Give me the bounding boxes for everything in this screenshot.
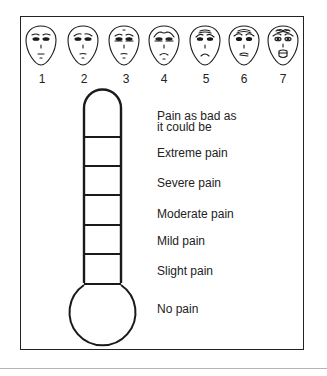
face-3-icon [109,26,139,65]
face-7-icon [268,26,298,65]
level-label-mild: Mild pain [157,236,205,247]
face-label-5: 5 [198,73,214,85]
pain-thermometer [69,90,135,346]
level-label-moderate: Moderate pain [157,209,234,220]
level-label-none: No pain [157,304,198,315]
face-2-icon [68,26,98,65]
face-label-3: 3 [118,73,134,85]
face-1-icon [26,26,56,65]
bottom-divider [0,368,327,369]
face-label-4: 4 [156,73,172,85]
face-label-1: 1 [34,73,50,85]
face-6-icon [229,26,259,65]
level-label-extreme: Extreme pain [157,148,228,159]
face-label-7: 7 [275,73,291,85]
level-label-slight: Slight pain [157,266,213,277]
face-4-icon [149,26,179,65]
face-label-6: 6 [236,73,252,85]
level-label-severe: Severe pain [157,178,221,189]
face-5-icon [190,26,220,65]
level-label-worst-line2: it could be [157,122,212,133]
face-label-2: 2 [76,73,92,85]
